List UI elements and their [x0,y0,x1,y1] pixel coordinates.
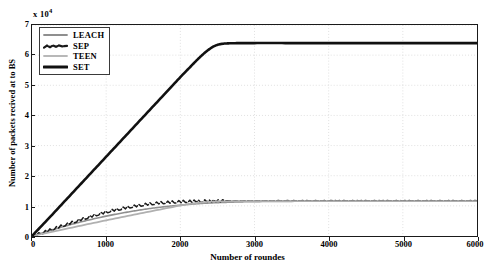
legend-label: SET [73,62,90,72]
x-axis-tick-mark [404,237,405,241]
y-axis-tick-mark [31,115,35,116]
y-axis-tick-label: 4 [25,110,29,120]
legend-swatch-icon [43,51,68,61]
legend-item-set: SET [43,62,104,73]
x-axis-title: Number of roundes [0,252,495,262]
y-axis-tick-label: 2 [25,171,29,181]
legend-swatch-icon [43,41,68,51]
y-axis-tick-label: 3 [25,141,29,151]
x-axis-tick-mark [31,237,32,241]
y-axis-tick-label: 6 [25,49,29,59]
y-axis-tick-label: 1 [25,202,29,212]
x-axis-tick-mark [329,237,330,241]
y-axis-tick-mark [31,85,35,86]
y-axis-exponent-base: x 10 [33,9,49,19]
x-axis-tick-labels: 0100020003000400050006000 [31,239,478,253]
y-axis-exponent-label: x 104 [33,7,53,19]
y-axis-tick-mark [31,207,35,208]
y-axis-tick-label: 7 [25,19,29,29]
legend-item-teen: TEEN [43,51,104,62]
legend-label: LEACH [73,30,104,40]
x-axis-tick-mark [478,237,479,241]
x-axis-tick-mark [106,237,107,241]
legend-label: TEEN [73,51,97,61]
series-line-leach [32,201,477,236]
y-axis-tick-label: 5 [25,80,29,90]
y-axis-tick-mark [31,176,35,177]
y-axis-tick-mark [31,146,35,147]
legend-label: SEP [73,41,89,51]
chart-legend: LEACHSEPTEENSET [39,27,110,75]
y-axis-tick-label: 0 [25,232,29,242]
y-axis-tick-labels: 01234567 [0,24,29,237]
y-axis-exponent-power: 4 [49,7,53,14]
legend-item-leach: LEACH [43,30,104,41]
chart-figure: x 104 Number of packets recived at to BS… [0,0,495,267]
legend-item-sep: SEP [43,41,104,52]
legend-swatch-icon [43,62,68,72]
x-axis-tick-mark [255,237,256,241]
y-axis-tick-mark [31,54,35,55]
x-axis-tick-mark [180,237,181,241]
legend-swatch-icon [43,30,68,40]
x-axis-tick-label: 6000 [467,239,484,249]
y-axis-tick-mark [31,24,35,25]
